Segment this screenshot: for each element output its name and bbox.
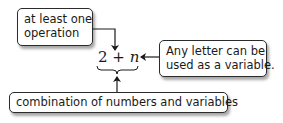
callout-combination-text: combination of numbers and variables: [16, 95, 227, 109]
brace: [97, 66, 138, 74]
callout-variable: Any letter can be used as a variable.: [159, 40, 267, 77]
expression-variable: n: [130, 48, 140, 66]
callout-operation: at least one operation: [17, 8, 93, 46]
callout-variable-line1: Any letter can be: [166, 44, 266, 58]
operation-arrow: [93, 29, 115, 50]
callout-operation-line1: at least one: [24, 12, 92, 26]
expression-operator: +: [112, 48, 125, 66]
expression-number: 2: [98, 48, 108, 66]
callout-variable-line2: used as a variable.: [166, 58, 266, 72]
callout-operation-line2: operation: [24, 26, 92, 40]
callout-combination: combination of numbers and variables: [9, 92, 228, 113]
algebraic-expression: 2 + n: [98, 48, 139, 66]
